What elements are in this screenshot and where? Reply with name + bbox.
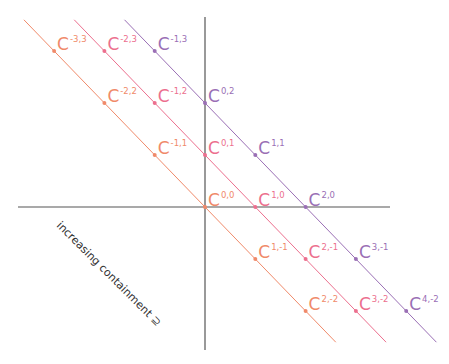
point-dot	[153, 153, 157, 157]
lattice-point: C4,-2	[404, 294, 438, 314]
lattice-point: C1,-1	[253, 242, 287, 262]
point-label: C-2,2	[107, 86, 136, 106]
point-label: C-3,3	[57, 34, 86, 54]
point-label: C2,-1	[309, 242, 338, 262]
point-dot	[253, 153, 257, 157]
point-dot	[304, 257, 308, 261]
point-dot	[153, 49, 157, 53]
lattice-point: C-1,3	[153, 34, 187, 54]
lattice-point: C1,1	[253, 138, 284, 158]
point-label: C-1,1	[158, 138, 187, 158]
lattice-point: C0,2	[203, 86, 234, 106]
point-label: C1,-1	[258, 242, 287, 262]
lattice-point: C-3,3	[52, 34, 86, 54]
point-dot	[253, 205, 257, 209]
point-dot	[203, 205, 207, 209]
diagonal-sum-0	[24, 20, 336, 342]
lattice-point: C2,-2	[304, 294, 338, 314]
lattice-point: C-2,2	[102, 86, 136, 106]
point-dot	[354, 257, 358, 261]
point-dot	[203, 101, 207, 105]
lattice-point: C3,-1	[354, 242, 388, 262]
lattice-point: C-2,3	[102, 34, 136, 54]
point-label: C3,-1	[359, 242, 388, 262]
point-dot	[102, 49, 106, 53]
point-label: C1,1	[258, 138, 284, 158]
point-dot	[253, 257, 257, 261]
point-dot	[354, 309, 358, 313]
lattice-point: C3,-2	[354, 294, 388, 314]
lattice-point: C-1,1	[153, 138, 187, 158]
containment-caption: increasing containment ⊇	[54, 219, 164, 329]
point-label: C3,-2	[359, 294, 388, 314]
point-dot	[203, 153, 207, 157]
point-dot	[102, 101, 106, 105]
point-label: C0,1	[208, 138, 234, 158]
point-dot	[304, 309, 308, 313]
point-dot	[404, 309, 408, 313]
containment-diagram: C-3,3C-2,2C-1,1C0,0C1,-1C2,-2C-2,3C-1,2C…	[0, 0, 449, 364]
point-label: C-2,3	[107, 34, 136, 54]
point-label: C-1,2	[158, 86, 187, 106]
point-label: C-1,3	[158, 34, 187, 54]
point-dot	[304, 205, 308, 209]
point-label: C2,-2	[309, 294, 338, 314]
lattice-point: C-1,2	[153, 86, 187, 106]
lattice-point: C2,-1	[304, 242, 338, 262]
point-label: C4,-2	[409, 294, 438, 314]
point-dot	[52, 49, 56, 53]
point-dot	[153, 101, 157, 105]
point-label: C0,2	[208, 86, 234, 106]
diagonal-sum-2	[125, 20, 437, 342]
lattice-point: C0,1	[203, 138, 234, 158]
